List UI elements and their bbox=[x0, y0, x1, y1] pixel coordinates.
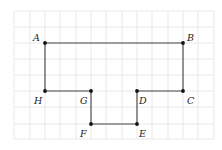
vertex-a bbox=[43, 41, 47, 45]
vertex-label-c: C bbox=[187, 95, 195, 106]
vertex-points: ABCDEFGH bbox=[32, 32, 195, 139]
grid bbox=[14, 11, 214, 139]
vertex-d bbox=[135, 89, 139, 93]
vertex-f bbox=[89, 122, 93, 126]
vertex-label-a: A bbox=[32, 32, 40, 43]
vertex-e bbox=[135, 122, 139, 126]
vertex-h bbox=[43, 89, 47, 93]
vertex-c bbox=[181, 89, 185, 93]
vertex-label-d: D bbox=[138, 95, 147, 106]
vertex-label-h: H bbox=[33, 95, 43, 106]
vertex-label-b: B bbox=[186, 32, 194, 43]
polygon-grid-diagram: ABCDEFGH bbox=[0, 0, 222, 150]
vertex-label-f: F bbox=[79, 128, 87, 139]
vertex-label-g: G bbox=[80, 95, 88, 106]
vertex-g bbox=[89, 89, 93, 93]
vertex-label-e: E bbox=[138, 128, 146, 139]
polygon-abcdefgh bbox=[45, 43, 183, 124]
vertex-b bbox=[181, 41, 185, 45]
